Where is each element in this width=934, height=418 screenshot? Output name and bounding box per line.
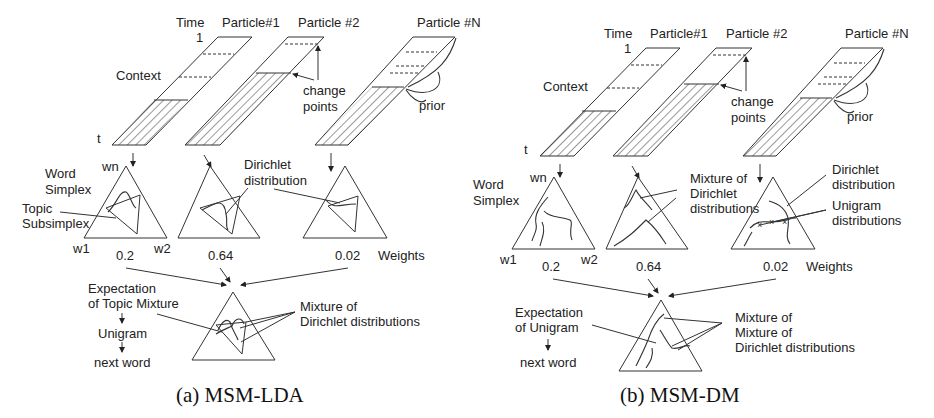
label-word-simplex-2: Simplex (45, 182, 92, 197)
label-change-points-2: points (731, 110, 766, 125)
caption-b: (b) MSM-DM (620, 383, 740, 407)
label-weight-1: 0.2 (542, 259, 560, 274)
label-weight-n: 0.02 (763, 259, 788, 274)
label-particle-1: Particle#1 (650, 26, 708, 41)
label-mixture-2: Mixture of (735, 325, 792, 340)
mixture-simplex (592, 300, 722, 371)
label-unigram-dist-2: distributions (832, 213, 902, 228)
arrow-converge (241, 268, 348, 285)
panel-a: Time 1 Particle#1 Particle #2 Particle #… (22, 15, 481, 407)
label-wn: wn (101, 159, 119, 174)
label-topic-subsimplex-1: Topic (22, 201, 53, 216)
label-unigram-dist-1: Unigram (832, 198, 881, 213)
label-change-points-2: points (303, 99, 338, 114)
arrow-converge (669, 279, 776, 296)
label-w1: w1 (72, 241, 90, 256)
label-dirichlet-1: Dirichlet (832, 162, 879, 177)
label-word-simplex-1: Word (473, 177, 504, 192)
label-dirichlet-2: distribution (244, 173, 307, 188)
label-prior: prior (847, 109, 874, 124)
word-simplex-2 (606, 177, 688, 249)
label-particle-2: Particle #2 (726, 26, 787, 41)
label-time: Time (604, 26, 632, 41)
label-expectation-1: Expectation (88, 281, 156, 296)
label-expectation-2: of Unigram (515, 320, 579, 335)
label-mixture-3: Dirichlet distributions (735, 340, 855, 355)
label-weights: Weights (378, 248, 425, 263)
label-next-word: next word (94, 355, 150, 370)
label-w2: w2 (153, 241, 171, 256)
label-dirichlet-1: Dirichlet (244, 157, 291, 172)
label-time: Time (176, 15, 204, 30)
label-particle-1: Particle#1 (222, 15, 280, 30)
label-time-end: t (97, 131, 101, 146)
label-particle-2: Particle #2 (298, 15, 359, 30)
label-w2: w2 (580, 252, 598, 267)
figure-canvas: Time 1 Particle#1 Particle #2 Particle #… (0, 0, 934, 418)
label-weight-n: 0.02 (335, 248, 360, 263)
arrow-converge (220, 268, 230, 282)
label-expectation-1: Expectation (515, 305, 583, 320)
word-simplex-1 (512, 177, 595, 249)
label-particle-n: Particle #N (417, 15, 481, 30)
label-word-simplex-2: Simplex (473, 193, 520, 208)
label-mixture-2: Dirichlet distributions (300, 314, 420, 329)
label-next-word: next word (520, 355, 576, 370)
panel-b: Time 1 Particle#1 Particle #2 Particle #… (473, 26, 909, 407)
label-mixture-dir-3: distributions (690, 201, 760, 216)
arrow-converge (553, 279, 653, 296)
label-weight-2: 0.64 (636, 259, 661, 274)
label-expectation-2: of Topic Mixture (88, 296, 179, 311)
label-weight-2: 0.64 (208, 248, 233, 263)
label-context: Context (543, 79, 588, 94)
label-context: Context (116, 68, 161, 83)
label-unigram: Unigram (98, 326, 147, 341)
label-dirichlet-2: distribution (832, 177, 895, 192)
label-w1: w1 (499, 252, 517, 267)
caption-a: (a) MSM-LDA (176, 383, 305, 407)
label-weight-1: 0.2 (116, 248, 134, 263)
arrow-converge (648, 279, 658, 293)
label-word-simplex-1: Word (45, 166, 76, 181)
label-mixture-1: Mixture of (300, 299, 357, 314)
label-time-start: 1 (624, 41, 631, 56)
label-time-end: t (524, 142, 528, 157)
label-change-points-1: change (731, 94, 774, 109)
label-particle-n: Particle #N (845, 26, 909, 41)
label-mixture-dir-1: Mixture of (690, 171, 747, 186)
label-mixture-1: Mixture of (735, 310, 792, 325)
label-topic-subsimplex-2: Subsimplex (22, 216, 90, 231)
label-prior: prior (419, 98, 446, 113)
label-wn: wn (529, 170, 547, 185)
label-mixture-dir-2: Dirichlet (690, 186, 737, 201)
label-weights: Weights (806, 259, 853, 274)
label-change-points-1: change (303, 83, 346, 98)
label-time-start: 1 (196, 30, 203, 45)
